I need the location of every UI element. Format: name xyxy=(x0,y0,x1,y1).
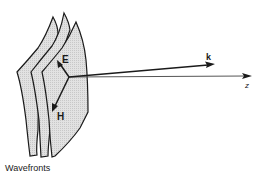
h-field-label: H xyxy=(57,111,64,122)
z-axis-label: z xyxy=(244,81,249,90)
wave-diagram: E H k z Wavefronts xyxy=(0,0,263,177)
k-vector-line xyxy=(69,65,208,77)
e-field-label: E xyxy=(62,54,69,65)
wavefronts-label: Wavefronts xyxy=(5,163,51,173)
z-axis-line xyxy=(69,76,246,77)
wave-vector-label: k xyxy=(206,52,212,62)
